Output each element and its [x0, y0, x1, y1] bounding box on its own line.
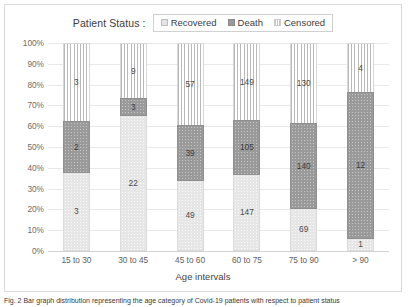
legend-label-death: Death: [238, 17, 263, 28]
figure-caption: Fig. 2 Bar graph distribution representi…: [4, 296, 404, 307]
bar-segment-value: 39: [185, 149, 194, 157]
stacked-bar[interactable]: 149105147: [233, 43, 260, 251]
bar-slot: 149105147: [218, 43, 275, 251]
x-axis-tick: 15 to 30: [48, 255, 105, 265]
y-axis-tick: 10%: [27, 225, 44, 235]
bar-segment-value: 140: [297, 162, 311, 170]
stacked-bar[interactable]: 323: [63, 43, 90, 251]
bar-segment-value: 3: [74, 78, 79, 86]
legend-item-censored[interactable]: Censored: [274, 17, 325, 28]
bar-segment-recovered[interactable]: 1: [347, 239, 374, 251]
bar-segment-value: 12: [356, 161, 365, 169]
bar-segment-value: 9: [131, 67, 136, 75]
bar-slot: 4121: [332, 43, 389, 251]
bar-segment-recovered[interactable]: 147: [233, 175, 260, 251]
bar-segment-value: 4: [358, 64, 363, 72]
bar-segment-death[interactable]: 105: [233, 120, 260, 174]
bar-segment-value: 49: [185, 211, 194, 219]
legend-box: Recovered Death Censored: [153, 14, 334, 32]
bar-segment-death[interactable]: 3: [120, 98, 147, 116]
bar-segment-death[interactable]: 2: [63, 121, 90, 173]
bar-segment-value: 22: [129, 179, 138, 187]
x-axis-tick: 60 to 75: [218, 255, 275, 265]
plot-area: 100%90%80%70%60%50%40%30%20%10%0% 323932…: [48, 43, 389, 251]
bar-slot: 9322: [105, 43, 162, 251]
bar-segment-censored[interactable]: 3: [63, 43, 90, 121]
death-swatch-icon: [228, 19, 235, 26]
bar-segment-recovered[interactable]: 3: [63, 173, 90, 251]
bar-segment-value: 147: [240, 208, 254, 216]
x-axis-tick: > 90: [332, 255, 389, 265]
x-axis-tick: 45 to 60: [162, 255, 219, 265]
legend-title: Patient Status :: [73, 17, 146, 29]
bar-segment-value: 105: [240, 143, 254, 151]
bar-segment-death[interactable]: 39: [177, 125, 204, 181]
y-axis-tick: 60%: [27, 121, 44, 131]
bar-segment-censored[interactable]: 57: [177, 43, 204, 125]
stacked-bar[interactable]: 4121: [347, 43, 374, 251]
y-axis-tick: 100%: [23, 38, 44, 48]
stacked-bar[interactable]: 573949: [177, 43, 204, 251]
chart-legend: Patient Status : Recovered Death Censore…: [5, 14, 401, 32]
bar-slot: 323: [48, 43, 105, 251]
bar-slot: 13014069: [275, 43, 332, 251]
bar-segment-recovered[interactable]: 49: [177, 181, 204, 251]
legend-item-recovered[interactable]: Recovered: [161, 17, 217, 28]
bar-segment-recovered[interactable]: 22: [120, 116, 147, 251]
x-axis-label: Age intervals: [5, 271, 401, 282]
stacked-bar[interactable]: 9322: [120, 43, 147, 251]
bar-segment-censored[interactable]: 130: [290, 43, 317, 123]
bar-segment-censored[interactable]: 9: [120, 43, 147, 98]
y-axis-tick: 90%: [27, 59, 44, 69]
y-axis-tick: 40%: [27, 163, 44, 173]
legend-label-recovered: Recovered: [171, 17, 217, 28]
bar-segment-value: 2: [74, 143, 79, 151]
y-axis-tick: 0%: [32, 246, 44, 256]
bar-segment-value: 149: [240, 78, 254, 86]
chart-figure: Patient Status : Recovered Death Censore…: [4, 4, 402, 292]
bar-segment-value: 130: [297, 79, 311, 87]
y-axis-tick: 20%: [27, 204, 44, 214]
bar-segment-value: 1: [358, 240, 363, 248]
censored-swatch-icon: [274, 19, 281, 26]
gridline: [48, 251, 389, 252]
y-axis-tick: 30%: [27, 184, 44, 194]
recovered-swatch-icon: [161, 19, 168, 26]
y-axis-tick: 50%: [27, 142, 44, 152]
legend-item-death[interactable]: Death: [228, 17, 263, 28]
bar-group: 3239322573949149105147130140694121: [48, 43, 389, 251]
bar-segment-value: 69: [299, 225, 308, 233]
x-axis-ticks: 15 to 3030 to 4545 to 6060 to 7575 to 90…: [48, 255, 389, 265]
legend-label-censored: Censored: [284, 17, 325, 28]
bar-segment-censored[interactable]: 4: [347, 43, 374, 92]
x-axis-tick: 75 to 90: [275, 255, 332, 265]
stacked-bar[interactable]: 13014069: [290, 43, 317, 251]
bar-segment-value: 57: [185, 80, 194, 88]
bar-slot: 573949: [162, 43, 219, 251]
x-axis-tick: 30 to 45: [105, 255, 162, 265]
bar-segment-value: 3: [74, 207, 79, 215]
y-axis-tick: 70%: [27, 100, 44, 110]
bar-segment-recovered[interactable]: 69: [290, 209, 317, 251]
bar-segment-death[interactable]: 140: [290, 123, 317, 209]
bar-segment-value: 3: [131, 103, 136, 111]
bar-segment-censored[interactable]: 149: [233, 43, 260, 120]
bar-segment-death[interactable]: 12: [347, 92, 374, 239]
y-axis-tick: 80%: [27, 80, 44, 90]
